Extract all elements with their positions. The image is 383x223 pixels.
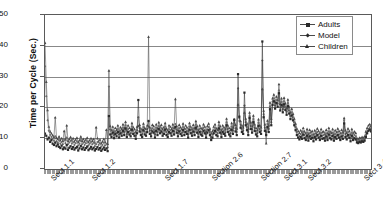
data-point	[206, 132, 208, 134]
data-point	[274, 108, 276, 110]
data-point	[119, 132, 121, 134]
data-point	[191, 135, 193, 137]
data-point	[107, 150, 109, 152]
data-point	[283, 103, 285, 105]
data-point	[254, 130, 256, 132]
data-point	[113, 137, 115, 139]
y-tick-label: 20	[0, 102, 8, 110]
data-point	[280, 97, 283, 100]
data-point	[117, 131, 119, 133]
legend-marker-icon	[300, 31, 315, 40]
data-point	[114, 126, 117, 129]
data-point	[96, 146, 98, 148]
data-point	[265, 142, 268, 145]
data-point	[176, 132, 178, 134]
data-point	[370, 130, 371, 132]
data-point	[145, 135, 147, 137]
data-point	[131, 128, 133, 130]
data-point	[130, 135, 132, 137]
data-point	[347, 134, 349, 136]
data-point	[76, 146, 78, 148]
legend-item-children[interactable]: Children	[300, 41, 348, 52]
data-point	[96, 137, 99, 140]
data-point	[47, 125, 50, 128]
data-point	[301, 138, 303, 140]
data-point	[197, 136, 199, 138]
data-point	[136, 132, 138, 134]
data-point	[277, 106, 279, 108]
data-point	[278, 89, 281, 92]
data-point	[60, 137, 63, 140]
data-point	[320, 128, 323, 131]
data-point	[221, 124, 224, 127]
data-point	[58, 135, 61, 138]
data-point	[174, 126, 176, 128]
data-point	[346, 138, 348, 140]
legend-label: Children	[318, 42, 348, 51]
data-point	[121, 135, 123, 137]
legend-item-adults[interactable]: Adults	[300, 19, 348, 30]
data-point	[248, 111, 251, 114]
data-point	[205, 136, 207, 138]
data-point	[90, 137, 93, 140]
data-point	[324, 140, 326, 142]
data-point	[263, 116, 265, 118]
data-point	[266, 119, 269, 122]
data-point	[220, 136, 222, 138]
data-point	[182, 129, 184, 131]
y-tick-label: 40	[0, 41, 8, 49]
data-point	[260, 133, 262, 135]
data-point	[108, 85, 111, 88]
data-point	[296, 134, 298, 136]
data-point	[69, 136, 72, 139]
data-point	[114, 133, 116, 135]
data-point	[265, 134, 267, 136]
data-point	[287, 105, 289, 107]
series-line	[45, 61, 371, 148]
data-point	[250, 128, 252, 130]
data-point	[316, 127, 319, 130]
data-point	[242, 133, 244, 135]
data-point	[245, 124, 247, 126]
data-point	[92, 147, 94, 149]
data-point	[233, 119, 235, 121]
data-point	[61, 144, 63, 146]
data-point	[279, 109, 281, 111]
data-point	[163, 133, 165, 135]
data-point	[108, 69, 111, 72]
data-point	[171, 123, 174, 126]
data-point	[234, 130, 236, 132]
data-point	[302, 133, 304, 135]
data-point	[95, 126, 98, 129]
data-point	[155, 123, 158, 126]
legend-label: Model	[318, 31, 340, 40]
data-point	[127, 124, 130, 127]
data-point	[319, 139, 321, 141]
data-point	[309, 135, 311, 137]
data-point	[252, 114, 255, 117]
data-point	[155, 130, 157, 132]
data-point	[45, 41, 46, 44]
data-point	[82, 137, 85, 140]
data-point	[299, 129, 302, 132]
data-point	[341, 135, 343, 137]
data-point	[224, 135, 226, 137]
y-tick-label: 0	[0, 164, 8, 172]
data-point	[126, 136, 128, 138]
data-point	[306, 128, 309, 131]
legend-item-model[interactable]: Model	[300, 30, 348, 41]
chart-legend[interactable]: AdultsModelChildren	[296, 16, 353, 55]
data-point	[195, 127, 197, 129]
data-point	[77, 149, 79, 151]
data-point	[284, 109, 286, 111]
data-point	[142, 129, 144, 131]
data-point	[202, 123, 205, 126]
data-point	[209, 134, 211, 136]
data-point	[54, 141, 56, 143]
data-point	[117, 124, 120, 127]
data-point	[349, 140, 351, 142]
data-point	[240, 127, 242, 129]
data-point	[344, 136, 346, 138]
legend-label: Adults	[318, 20, 340, 29]
data-point	[133, 135, 135, 137]
